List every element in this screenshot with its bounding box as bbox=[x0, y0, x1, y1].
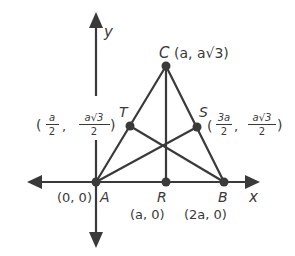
svg-text:(: ( bbox=[207, 118, 212, 134]
svg-text:,: , bbox=[234, 119, 238, 134]
svg-text:): ) bbox=[277, 117, 282, 133]
point-B-coords: (2a, 0) bbox=[184, 207, 227, 222]
point-B bbox=[220, 178, 229, 187]
S-y-numerator: a√3 bbox=[253, 112, 272, 123]
S-x-denominator: 2 bbox=[221, 126, 227, 137]
point-C-coords: (a, a√3) bbox=[174, 45, 229, 61]
point-T-name: T bbox=[119, 104, 129, 120]
point-R-name: R bbox=[157, 189, 167, 205]
S-y-denominator: 2 bbox=[259, 126, 265, 137]
T-y-denominator: 2 bbox=[91, 126, 97, 137]
T-x-numerator: a bbox=[49, 112, 55, 123]
point-A bbox=[92, 178, 101, 187]
T-x-denominator: 2 bbox=[49, 126, 55, 137]
svg-text:(: ( bbox=[36, 117, 41, 133]
point-C bbox=[162, 62, 171, 71]
y-axis-bottom-arrow-icon bbox=[89, 232, 103, 248]
x-axis-right-arrow-icon bbox=[245, 175, 260, 189]
x-axis-label: x bbox=[248, 188, 258, 206]
point-A-coords: (0, 0) bbox=[57, 190, 92, 205]
triangle-diagram: y x C (a, a√3) (0, 0) A R (a, 0) B (2a, … bbox=[0, 0, 295, 256]
point-C-name: C bbox=[159, 44, 170, 62]
point-B-name: B bbox=[218, 189, 228, 205]
point-A-name: A bbox=[99, 189, 110, 205]
point-T-coords: ( a 2 , a√3 2 ) bbox=[36, 112, 115, 137]
point-R bbox=[162, 178, 171, 187]
T-y-numerator: a√3 bbox=[85, 112, 104, 123]
point-T bbox=[126, 122, 135, 131]
y-axis-top-arrow-icon bbox=[89, 12, 103, 28]
y-axis-label: y bbox=[103, 23, 114, 41]
S-x-numerator: 3a bbox=[218, 112, 231, 123]
point-S bbox=[193, 123, 202, 132]
point-R-coords: (a, 0) bbox=[130, 207, 165, 222]
svg-text:,: , bbox=[62, 119, 66, 134]
x-axis-left-arrow-icon bbox=[27, 175, 42, 189]
point-S-coords: ( 3a 2 , a√3 2 ) bbox=[207, 112, 282, 137]
svg-text:): ) bbox=[110, 117, 115, 133]
